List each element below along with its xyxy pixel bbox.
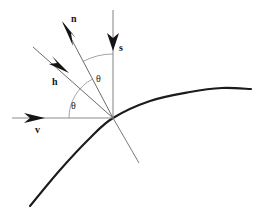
normal-vector-label: n [71,13,77,24]
vector-diagram-figure: n s h v θ θ [0,0,264,216]
half-vector-label: h [52,76,58,87]
angle-upper-label: θ [96,73,101,84]
angle-upper-arc [83,54,113,61]
surface-curve [30,88,251,206]
angle-lower-label: θ [71,100,76,111]
normal-vector-arrowhead-icon [62,21,76,46]
normal-extension-line [113,118,139,163]
diagram-canvas: n s h v θ θ [0,0,264,216]
angle-lower-arc [69,79,92,118]
surface-vector-label: s [119,42,123,53]
view-vector-label: v [35,124,40,135]
